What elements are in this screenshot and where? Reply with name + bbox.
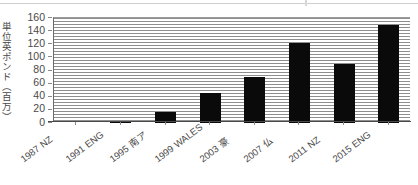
y-axis-tick-label: 0 bbox=[39, 117, 45, 128]
x-axis-tick-label: 1987NZ bbox=[18, 134, 54, 165]
bar bbox=[244, 77, 265, 123]
y-axis-tick-mark bbox=[48, 70, 52, 71]
y-axis-title: 単位英ポンド（百万） bbox=[1, 12, 19, 132]
plot-area bbox=[53, 17, 410, 122]
bar bbox=[200, 93, 221, 123]
y-axis-tick-labels: 160140120100806040200 bbox=[18, 12, 48, 126]
y-axis-tick-mark bbox=[48, 109, 52, 110]
y-axis-tick-label: 100 bbox=[27, 51, 45, 62]
y-axis-tick-label: 140 bbox=[27, 25, 45, 36]
x-axis-tick-mark bbox=[120, 122, 121, 125]
y-axis-tick-mark bbox=[48, 43, 52, 44]
bars-layer bbox=[54, 18, 411, 123]
y-axis-tick-label: 80 bbox=[33, 64, 45, 75]
y-axis-tick-label: 120 bbox=[27, 38, 45, 49]
y-axis-tick-label: 60 bbox=[33, 77, 45, 88]
y-axis-tick-label: 40 bbox=[33, 90, 45, 101]
top-rule-marker bbox=[305, 0, 307, 6]
bar-chart: 単位英ポンド（百万） 160140120100806040200 1987NZ1… bbox=[0, 0, 418, 185]
bar bbox=[334, 64, 355, 123]
y-axis-tick-mark bbox=[48, 30, 52, 31]
bar bbox=[378, 25, 399, 123]
x-axis-tick-mark bbox=[75, 122, 76, 125]
x-axis-tick-mark bbox=[209, 122, 210, 125]
y-axis-tick-mark bbox=[48, 83, 52, 84]
x-axis-tick-labels: 1987NZ1991ENG1995南ア1999WALES2003豪2007仏20… bbox=[53, 122, 410, 184]
y-axis-tick-mark bbox=[48, 56, 52, 57]
y-axis-tick-label: 20 bbox=[33, 103, 45, 114]
x-axis-label-year: 1987 bbox=[18, 143, 42, 165]
y-axis-tick-label: 160 bbox=[27, 12, 45, 23]
bar bbox=[289, 43, 310, 123]
y-axis-tick-mark bbox=[48, 122, 52, 123]
x-axis-label-slot: 2015ENG bbox=[365, 122, 410, 184]
x-axis-tick-mark bbox=[388, 122, 389, 125]
x-axis-tick-mark bbox=[254, 122, 255, 125]
x-axis-tick-mark bbox=[298, 122, 299, 125]
x-axis-tick-mark bbox=[343, 122, 344, 125]
y-axis-tick-mark bbox=[48, 96, 52, 97]
y-axis-tick-mark bbox=[48, 17, 52, 18]
x-axis-tick-mark bbox=[165, 122, 166, 125]
x-axis-label-nation: NZ bbox=[38, 134, 55, 150]
top-divider-rule bbox=[0, 3, 418, 4]
